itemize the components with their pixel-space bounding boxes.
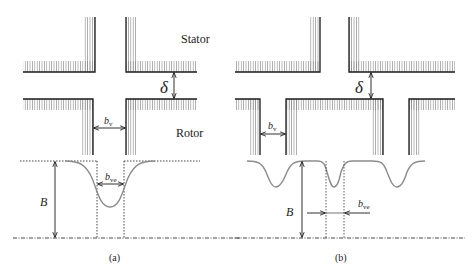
stator-label: Stator	[181, 32, 210, 46]
stator-b	[235, 17, 455, 72]
panel-a-caption: (a)	[109, 252, 120, 264]
B-label-a: B	[40, 195, 48, 209]
flux-density-curve-b	[247, 161, 425, 187]
stator-a	[23, 17, 197, 72]
delta-label-b: δ	[355, 78, 364, 97]
bv-label-a: bv	[104, 115, 113, 128]
panel-b-caption: (b)	[335, 252, 347, 264]
figure: Stator Rotor δ bv bve B (a)	[0, 0, 475, 280]
delta-label-a: δ	[160, 78, 169, 97]
stator-rotor-diagram: Stator Rotor δ bv bve B (a)	[0, 0, 475, 280]
B-label-b: B	[286, 205, 294, 219]
bv-label-b: bv	[268, 120, 277, 133]
panel-a: Stator Rotor δ bv bve B (a)	[13, 17, 240, 264]
rotor-label: Rotor	[176, 126, 203, 140]
bve-label-a: bve	[105, 171, 117, 184]
panel-b: δ bv bve B (b)	[235, 17, 465, 264]
bve-label-b: bve	[358, 198, 370, 211]
